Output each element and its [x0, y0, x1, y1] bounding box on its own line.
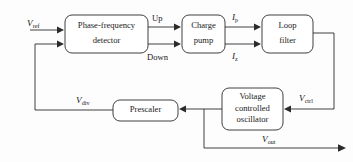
arrowhead-pfd-up	[174, 24, 181, 31]
vco-label-line1: Voltage	[239, 91, 265, 101]
vco-label-line2: controlled	[235, 103, 271, 113]
i-z-label: Iz	[231, 51, 238, 62]
up-label: Up	[152, 13, 163, 23]
block-prescaler[interactable]: Prescaler	[113, 100, 178, 121]
v-ref-subscript: ref	[33, 22, 41, 29]
v-div-subscript: div	[82, 99, 91, 106]
i-z-subscript: z	[235, 55, 238, 62]
down-label: Down	[147, 52, 169, 62]
loop-filter-label-line1: Loop	[278, 20, 296, 30]
v-div-label: Vdiv	[76, 95, 90, 106]
phase-frequency-detector-label-line1: Phase-frequency	[78, 20, 136, 30]
prescaler-label: Prescaler	[130, 104, 162, 114]
charge-pump-label-line2: pump	[194, 35, 214, 45]
arrowhead-feedback-to-pfd	[57, 41, 64, 48]
block-loop-filter[interactable]: Loop filter	[262, 15, 313, 53]
charge-pump-label-line1: Charge	[191, 20, 216, 30]
arrowhead-vctrl-to-vco	[284, 106, 291, 113]
loop-filter-label-line2: filter	[279, 35, 296, 45]
arrowhead-iz	[254, 41, 261, 48]
v-ref-label: Vref	[27, 18, 40, 29]
arrowhead-vout	[338, 144, 346, 152]
v-ctrl-subscript: ctrl	[305, 97, 314, 104]
arrowhead-vref-to-pfd	[57, 27, 64, 34]
v-out-label: Vout	[262, 134, 276, 145]
pll-block-diagram: Phase-frequency detector Charge pump Loo…	[0, 0, 353, 162]
arrowhead-pfd-down	[174, 41, 181, 48]
vco-label-line3: oscillator	[237, 114, 269, 124]
v-ctrl-label: Vctrl	[299, 93, 313, 104]
diagram-canvas: Phase-frequency detector Charge pump Loo…	[0, 0, 353, 162]
arrowhead-ip	[254, 24, 261, 31]
block-phase-frequency-detector[interactable]: Phase-frequency detector	[65, 15, 148, 53]
block-layer: Phase-frequency detector Charge pump Loo…	[65, 15, 313, 130]
phase-frequency-detector-label-line2: detector	[93, 35, 121, 45]
wire-feedback-to-pfd	[35, 44, 60, 110]
block-voltage-controlled-oscillator[interactable]: Voltage controlled oscillator	[222, 88, 283, 130]
i-p-subscript: p	[235, 16, 238, 23]
block-charge-pump[interactable]: Charge pump	[182, 15, 225, 53]
v-out-subscript: out	[268, 138, 276, 145]
arrowhead-vco-to-prescaler	[179, 106, 186, 113]
i-p-label: Ip	[231, 12, 238, 23]
